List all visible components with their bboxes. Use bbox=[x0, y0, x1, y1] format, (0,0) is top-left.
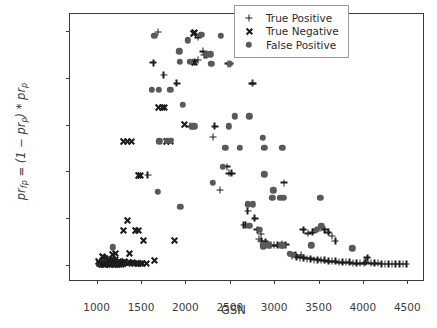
data-point-circle bbox=[210, 179, 216, 185]
data-point-plus bbox=[335, 259, 342, 266]
data-point-cross bbox=[189, 29, 196, 36]
x-tick-mark bbox=[185, 280, 186, 284]
data-point-plus bbox=[304, 230, 311, 237]
data-point-circle bbox=[218, 32, 224, 38]
data-point-plus bbox=[389, 261, 396, 268]
data-point-cross bbox=[158, 103, 165, 110]
data-point-circle bbox=[259, 134, 265, 140]
data-point-plus bbox=[300, 226, 307, 233]
data-point-cross bbox=[191, 58, 198, 65]
data-point-cross bbox=[119, 259, 126, 266]
y-tick-mark bbox=[66, 31, 70, 32]
data-point-circle bbox=[279, 145, 285, 151]
data-point-circle bbox=[287, 251, 293, 257]
data-point-plus bbox=[339, 259, 346, 266]
y-axis-label-mid2: ) * pr bbox=[14, 88, 28, 118]
data-point-plus bbox=[257, 231, 264, 238]
legend-entry: True Negative bbox=[241, 25, 339, 39]
data-point-cross bbox=[171, 236, 178, 243]
data-point-plus bbox=[251, 215, 258, 222]
y-axis-label-sub-p1: p bbox=[20, 117, 29, 122]
data-point-plus bbox=[293, 253, 300, 260]
x-tick-mark bbox=[274, 280, 275, 284]
data-point-circle bbox=[277, 194, 283, 200]
data-point-plus bbox=[254, 226, 261, 233]
data-point-circle bbox=[226, 123, 232, 129]
data-point-circle bbox=[187, 59, 193, 65]
data-point-plus bbox=[403, 261, 410, 268]
data-point-cross bbox=[101, 261, 108, 268]
legend-label: False Positive bbox=[266, 39, 336, 51]
data-point-plus bbox=[350, 260, 357, 267]
data-point-cross bbox=[131, 260, 138, 267]
data-point-cross bbox=[100, 253, 107, 260]
data-point-cross bbox=[151, 257, 158, 264]
data-point-circle bbox=[250, 201, 256, 207]
data-point-plus bbox=[224, 163, 231, 170]
y-axis-label-mid: = (1 − pr bbox=[14, 123, 28, 181]
data-point-plus bbox=[244, 207, 251, 214]
x-tick-label: 4500 bbox=[377, 301, 437, 313]
data-point-cross bbox=[108, 261, 115, 268]
data-point-circle bbox=[180, 102, 186, 108]
data-point-plus bbox=[216, 187, 223, 194]
y-axis-label-sub-fp: fp bbox=[20, 180, 29, 188]
data-point-plus bbox=[300, 254, 307, 261]
data-point-cross bbox=[135, 172, 142, 179]
data-point-cross bbox=[99, 261, 106, 268]
data-point-cross bbox=[105, 255, 112, 262]
data-point-circle bbox=[203, 51, 209, 57]
data-point-plus bbox=[364, 254, 371, 261]
data-point-circle bbox=[164, 137, 170, 143]
data-point-plus bbox=[328, 258, 335, 265]
data-point-circle bbox=[290, 252, 296, 258]
data-point-plus bbox=[318, 224, 325, 231]
data-point-circle bbox=[207, 51, 213, 57]
data-point-cross bbox=[110, 257, 117, 264]
y-tick-mark bbox=[66, 125, 70, 126]
data-point-plus bbox=[362, 259, 369, 266]
data-point-circle bbox=[278, 242, 284, 248]
y-tick-mark bbox=[66, 265, 70, 266]
y-tick-mark bbox=[66, 78, 70, 79]
data-point-cross bbox=[155, 103, 162, 110]
data-point-cross bbox=[126, 259, 133, 266]
data-point-plus bbox=[225, 170, 232, 177]
legend-marker-circle-icon bbox=[241, 39, 257, 50]
data-point-cross bbox=[117, 259, 124, 266]
data-point-plus bbox=[224, 60, 231, 67]
data-point-cross bbox=[109, 250, 116, 257]
legend-entry: False Positive bbox=[241, 38, 339, 52]
data-point-circle bbox=[156, 138, 162, 144]
data-point-plus bbox=[309, 229, 316, 236]
data-point-circle bbox=[177, 204, 183, 210]
data-point-plus bbox=[280, 179, 287, 186]
data-point-plus bbox=[343, 259, 350, 266]
data-point-cross bbox=[137, 172, 144, 179]
data-point-plus bbox=[211, 123, 218, 130]
data-point-cross bbox=[137, 260, 144, 267]
data-point-circle bbox=[167, 87, 173, 93]
data-point-plus bbox=[194, 56, 201, 63]
data-point-plus bbox=[200, 48, 207, 55]
data-point-plus bbox=[296, 254, 303, 261]
x-tick-mark bbox=[363, 280, 364, 284]
data-point-circle bbox=[151, 32, 157, 38]
data-point-plus bbox=[256, 235, 263, 242]
data-point-circle bbox=[280, 242, 286, 248]
data-point-plus bbox=[194, 34, 201, 41]
data-point-cross bbox=[107, 256, 114, 263]
data-point-cross bbox=[102, 254, 109, 261]
legend-label: True Positive bbox=[266, 12, 332, 24]
data-point-cross bbox=[129, 259, 136, 266]
data-point-circle bbox=[109, 244, 115, 250]
data-point-plus bbox=[279, 240, 286, 247]
plus-icon bbox=[246, 14, 253, 21]
data-point-circle bbox=[155, 189, 161, 195]
data-point-plus bbox=[325, 258, 332, 265]
legend-entry: True Positive bbox=[241, 11, 339, 25]
data-point-plus bbox=[297, 251, 304, 258]
data-point-cross bbox=[163, 137, 170, 144]
data-point-cross bbox=[116, 261, 123, 268]
data-point-cross bbox=[140, 236, 147, 243]
